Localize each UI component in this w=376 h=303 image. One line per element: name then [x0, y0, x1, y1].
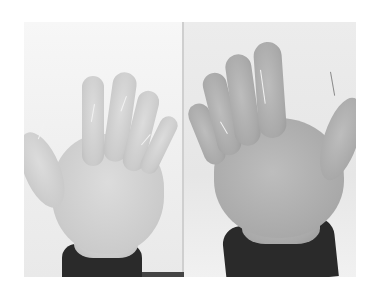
bottom-edge-strip — [139, 272, 184, 277]
left-index-finger — [82, 76, 104, 166]
panel-seam — [182, 22, 184, 277]
hands-photo — [24, 22, 356, 277]
